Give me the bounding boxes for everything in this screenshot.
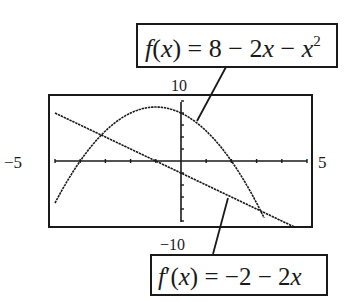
bottom-callout-formula: f′(x) = −2 − 2x (158, 263, 302, 291)
x-max-label: 5 (318, 153, 327, 172)
top-callout: f(x) = 8 − 2x − x2 (137, 24, 337, 67)
chart-figure: −5 5 10 −10 f(x) = 8 − 2x − x2 f′(x) = −… (0, 0, 352, 302)
chart-svg: −5 5 10 −10 f(x) = 8 − 2x − x2 f′(x) = −… (0, 0, 352, 302)
bottom-callout: f′(x) = −2 − 2x (151, 255, 327, 295)
derivative-line (55, 113, 294, 227)
top-callout-formula: f(x) = 8 − 2x − x2 (145, 33, 321, 63)
y-min-label: −10 (160, 236, 185, 253)
x-min-label: −5 (4, 153, 22, 172)
y-max-label: 10 (171, 77, 187, 94)
